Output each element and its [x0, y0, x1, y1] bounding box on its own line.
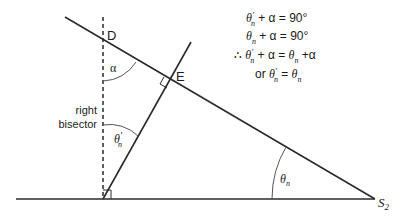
inclined-line	[65, 17, 375, 199]
equation-4: or θ′n = θn	[255, 66, 301, 84]
equation-2: θn + α = 90°	[246, 29, 309, 46]
point-e-label: E	[176, 69, 185, 84]
bisector-label: bisector	[58, 118, 97, 130]
alpha-arc	[103, 62, 136, 81]
alpha-label: α	[110, 61, 117, 75]
refraction-geometry-diagram: D E S2 right bisector α θ′n θn θ′n + α =…	[0, 0, 400, 218]
point-d-label: D	[107, 28, 116, 43]
equation-1: θ′n + α = 90°	[246, 10, 308, 28]
theta-label: θn	[280, 172, 290, 188]
equations-block: θ′n + α = 90° θn + α = 90° ∴ θ′n + α = θ…	[234, 10, 316, 84]
theta-prime-label: θ′n	[114, 130, 123, 149]
equation-3: ∴ θ′n + α = θn +α	[234, 47, 316, 65]
s2-label: S2	[378, 195, 390, 212]
right-label: right	[76, 104, 97, 116]
